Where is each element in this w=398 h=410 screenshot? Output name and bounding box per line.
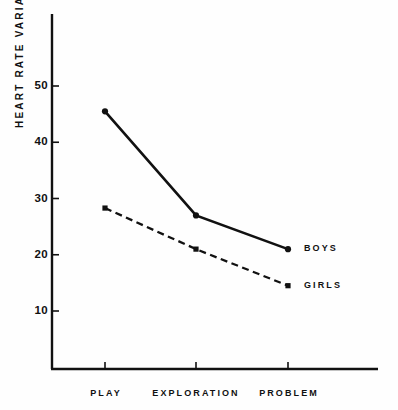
data-series-layer <box>102 108 291 288</box>
x-tick-label-exploration: EXPLORATION <box>140 388 252 398</box>
data-point-girls <box>285 283 290 288</box>
chart-figure: HEART RATE VARIANCE 50 40 30 20 10 PLAY … <box>0 0 398 410</box>
x-tick-label-play: PLAY <box>78 388 134 398</box>
x-tick-label-problem: PROBLEM <box>253 388 325 398</box>
plot-area <box>0 0 398 410</box>
axis-lines <box>51 14 378 369</box>
data-point-boys <box>102 108 108 114</box>
series-line-boys <box>105 111 288 249</box>
data-point-girls <box>102 205 107 210</box>
data-point-boys <box>285 246 291 252</box>
series-label-girls: GIRLS <box>304 280 342 290</box>
series-label-boys: BOYS <box>304 243 338 253</box>
data-point-girls <box>193 247 198 252</box>
data-point-boys <box>193 212 199 218</box>
